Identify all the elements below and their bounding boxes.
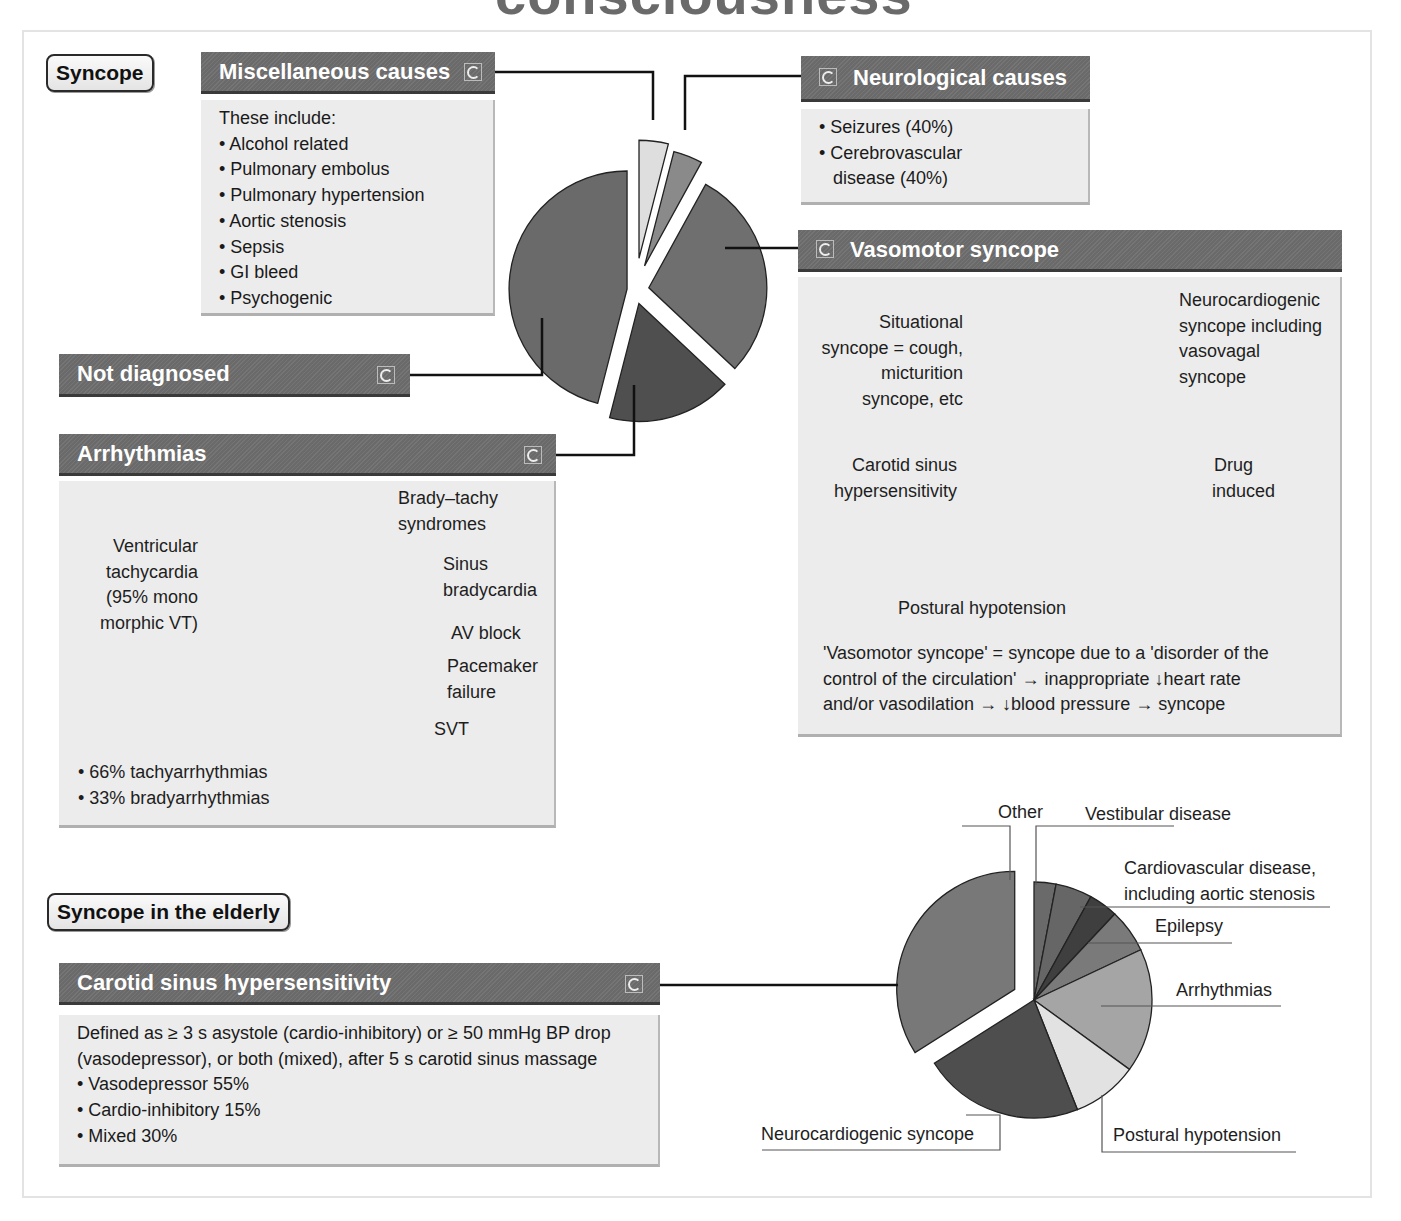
list-item: Sepsis bbox=[219, 235, 475, 261]
connector-icon bbox=[816, 240, 834, 258]
label-drug-induced: Drug induced bbox=[1214, 453, 1275, 504]
not-diagnosed-header: Not diagnosed bbox=[59, 354, 410, 397]
connector-icon bbox=[625, 975, 643, 993]
list-item: disease (40%) bbox=[819, 166, 1070, 192]
arrhythmia-bullets: • 66% tachyarrhythmias • 33% bradyarrhyt… bbox=[78, 760, 269, 811]
page-title: consciousness bbox=[495, 0, 913, 27]
connector-icon bbox=[524, 446, 542, 464]
arrhythmias-title: Arrhythmias bbox=[59, 441, 207, 467]
label-neurocardiogenic-elderly: Neurocardiogenic syncope bbox=[761, 1122, 974, 1148]
list-item: GI bleed bbox=[219, 260, 475, 286]
section-tag-syncope: Syncope bbox=[46, 54, 154, 92]
list-item: Seizures (40%) bbox=[819, 115, 1070, 141]
list-item: Cerebrovascular bbox=[819, 141, 1070, 167]
label-epilepsy: Epilepsy bbox=[1155, 914, 1223, 940]
label-ventricular-tachycardia: Ventricular tachycardia (95% mono morphi… bbox=[80, 534, 198, 636]
arrhythmias-header: Arrhythmias bbox=[59, 434, 556, 476]
label-cardiovascular: Cardiovascular disease, including aortic… bbox=[1124, 856, 1316, 907]
label-postural-hypotension: Postural hypotension bbox=[898, 596, 1066, 622]
misc-intro: These include: bbox=[219, 106, 475, 132]
label-neurocardiogenic: Neurocardiogenic syncope including vasov… bbox=[1179, 288, 1322, 390]
misc-causes-box: These include: Alcohol related Pulmonary… bbox=[201, 100, 495, 316]
list-item: Psychogenic bbox=[219, 286, 475, 312]
list-item: Pulmonary embolus bbox=[219, 157, 475, 183]
carotid-sinus-title: Carotid sinus hypersensitivity bbox=[59, 970, 391, 996]
carotid-types-list: Vasodepressor 55% Cardio-inhibitory 15% … bbox=[77, 1072, 640, 1149]
neuro-causes-list: Seizures (40%) Cerebrovascular disease (… bbox=[819, 115, 1070, 192]
carotid-sinus-box: Defined as ≥ 3 s asystole (cardio-inhibi… bbox=[59, 1015, 660, 1167]
misc-causes-title: Miscellaneous causes bbox=[201, 59, 450, 85]
list-item: Alcohol related bbox=[219, 132, 475, 158]
label-svt: SVT bbox=[434, 717, 469, 743]
connector-icon bbox=[819, 68, 837, 86]
connector-icon bbox=[377, 366, 395, 384]
neuro-causes-box: Seizures (40%) Cerebrovascular disease (… bbox=[801, 109, 1090, 205]
vasomotor-definition: 'Vasomotor syncope' = syncope due to a '… bbox=[823, 641, 1333, 718]
carotid-definition: Defined as ≥ 3 s asystole (cardio-inhibi… bbox=[77, 1021, 640, 1072]
list-item: • 33% bradyarrhythmias bbox=[78, 786, 269, 812]
list-item: Aortic stenosis bbox=[219, 209, 475, 235]
not-diagnosed-title: Not diagnosed bbox=[59, 361, 230, 387]
label-av-block: AV block bbox=[451, 621, 521, 647]
vasomotor-header: Vasomotor syncope bbox=[798, 230, 1342, 272]
neuro-causes-header: Neurological causes bbox=[801, 56, 1090, 102]
list-item: Cardio-inhibitory 15% bbox=[77, 1098, 640, 1124]
neuro-causes-title: Neurological causes bbox=[801, 65, 1067, 91]
list-item: • 66% tachyarrhythmias bbox=[78, 760, 269, 786]
list-item: Vasodepressor 55% bbox=[77, 1072, 640, 1098]
label-pacemaker-failure: Pacemaker failure bbox=[447, 654, 538, 705]
vasomotor-title: Vasomotor syncope bbox=[798, 237, 1059, 263]
connector-icon bbox=[464, 63, 482, 81]
label-arrhythmias-elderly: Arrhythmias bbox=[1176, 978, 1272, 1004]
label-vestibular: Vestibular disease bbox=[1085, 802, 1231, 828]
list-item: Mixed 30% bbox=[77, 1124, 640, 1150]
section-tag-elderly: Syncope in the elderly bbox=[47, 893, 290, 931]
label-carotid-sinus: Carotid sinus hypersensitivity bbox=[800, 453, 957, 504]
carotid-sinus-header: Carotid sinus hypersensitivity bbox=[59, 963, 660, 1005]
label-other: Other bbox=[998, 800, 1043, 826]
list-item: Pulmonary hypertension bbox=[219, 183, 475, 209]
misc-causes-list: Alcohol related Pulmonary embolus Pulmon… bbox=[219, 132, 475, 312]
misc-causes-header: Miscellaneous causes bbox=[201, 52, 495, 94]
label-postural-elderly: Postural hypotension bbox=[1113, 1123, 1281, 1149]
label-situational: Situational syncope = cough, micturition… bbox=[800, 310, 963, 412]
label-sinus-bradycardia: Sinus bradycardia bbox=[443, 552, 537, 603]
label-brady-tachy: Brady–tachy syndromes bbox=[398, 486, 498, 537]
